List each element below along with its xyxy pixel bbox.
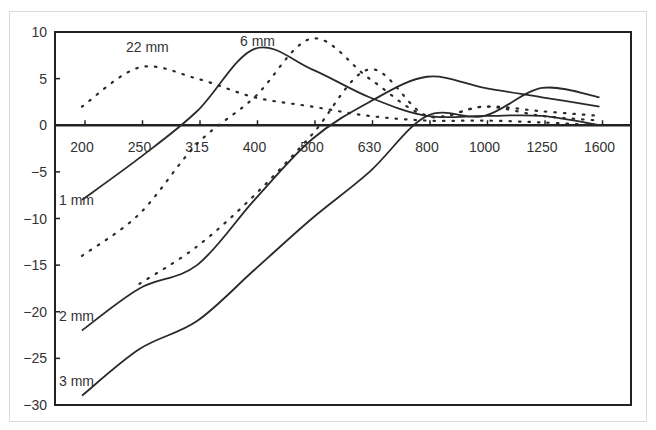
- x-tick-label: 250: [128, 139, 152, 155]
- series-1-mm-dotted: [82, 38, 600, 255]
- series-group: [82, 38, 600, 395]
- x-tick-label: 630: [358, 139, 382, 155]
- line-chart: 1050−5−10−15−20−25−30 200250315400500630…: [0, 0, 656, 430]
- y-tick-label: 10: [31, 24, 47, 40]
- x-tick-label: 1250: [526, 139, 557, 155]
- y-tick-label: −15: [23, 257, 47, 273]
- series-1-mm: [82, 47, 600, 200]
- annotation-label: 6 mm: [240, 33, 275, 49]
- annotation-label: 22 mm: [126, 39, 169, 55]
- x-tick-label: 1000: [469, 139, 500, 155]
- y-axis-labels: 1050−5−10−15−20−25−30: [23, 24, 47, 413]
- y-tick-label: 0: [39, 117, 47, 133]
- annotation-label: 3 mm: [59, 373, 94, 389]
- y-tick-label: −20: [23, 304, 47, 320]
- x-tick-label: 200: [70, 139, 94, 155]
- y-tick-label: −10: [23, 211, 47, 227]
- y-tick-label: 5: [39, 71, 47, 87]
- x-tick-label: 400: [243, 139, 267, 155]
- y-tick-label: −30: [23, 397, 47, 413]
- x-tick-label: 1600: [584, 139, 615, 155]
- x-tick-label: 315: [185, 139, 209, 155]
- series-3-mm: [82, 87, 600, 395]
- x-tick-label: 800: [415, 139, 439, 155]
- annotation-label: 2 mm: [59, 308, 94, 324]
- y-tick-label: −25: [23, 350, 47, 366]
- annotation-label: 1 mm: [59, 192, 94, 208]
- y-tick-label: −5: [31, 164, 47, 180]
